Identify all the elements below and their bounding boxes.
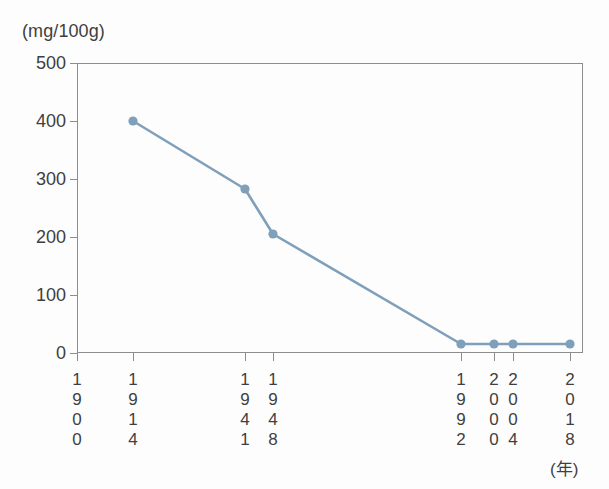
y-tick-label-200: 200 [8,227,66,248]
chart-figure: (mg/100g) 0 100 200 300 400 500 1900 191… [0,0,609,489]
x-tick-mark-1992 [461,353,462,361]
y-tick-mark-500 [70,63,77,64]
x-tick-mark-2018 [570,353,571,361]
y-tick-mark-300 [70,179,77,180]
y-tick-mark-100 [70,295,77,296]
x-tick-mark-2000 [494,353,495,361]
y-tick-label-0: 0 [8,343,66,364]
x-tick-label-2004: 2004 [502,370,524,450]
y-tick-mark-400 [70,121,77,122]
x-tick-mark-1900 [77,353,78,361]
y-tick-label-100: 100 [8,285,66,306]
x-tick-label-1900: 1900 [66,370,88,450]
x-tick-mark-1948 [273,353,274,361]
y-tick-label-500: 500 [8,53,66,74]
x-tick-label-2018: 2018 [559,370,581,450]
plot-area [77,63,583,353]
x-tick-mark-2004 [513,353,514,361]
x-axis-unit-label: (年) [550,455,578,480]
x-tick-label-1948: 1948 [262,370,284,450]
x-tick-mark-1914 [133,353,134,361]
y-tick-mark-0 [70,353,77,354]
y-axis-unit-label: (mg/100g) [22,21,105,42]
x-tick-label-1992: 1992 [450,370,472,450]
x-tick-mark-1941 [245,353,246,361]
x-tick-label-1914: 1914 [122,370,144,450]
y-tick-mark-200 [70,237,77,238]
y-tick-label-300: 300 [8,169,66,190]
y-tick-label-400: 400 [8,111,66,132]
x-tick-label-1941: 1941 [234,370,256,450]
